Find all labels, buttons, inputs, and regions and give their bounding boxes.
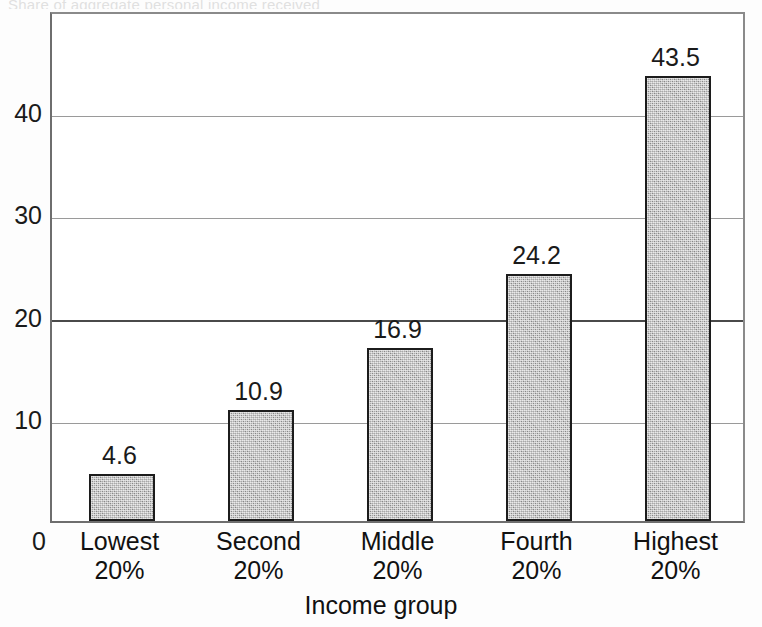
x-axis-title: Income group xyxy=(0,591,762,620)
bar-value-label: 10.9 xyxy=(199,379,319,404)
x-axis-tick-label-line1: Middle xyxy=(361,527,435,555)
x-axis-tick-label: Second20% xyxy=(179,527,339,585)
y-axis-tick-label-30: 30 xyxy=(0,203,42,228)
bar-chart-figure: Share of aggregate personal income recei… xyxy=(0,0,762,627)
bar xyxy=(228,410,294,521)
x-axis-tick-label-line1: Highest xyxy=(633,527,718,555)
x-axis-tick-label-line2: 20% xyxy=(40,556,200,585)
x-axis-tick-label: Middle20% xyxy=(318,527,478,585)
y-axis-tick-label-10: 10 xyxy=(0,408,42,433)
x-axis-tick-label-line1: Lowest xyxy=(80,527,159,555)
gridline-30 xyxy=(52,218,743,219)
bar-value-label: 24.2 xyxy=(477,243,597,268)
bar xyxy=(89,474,155,521)
bar xyxy=(367,348,433,521)
y-axis-tick-label-20: 20 xyxy=(0,306,42,331)
bar-value-label: 43.5 xyxy=(616,45,736,70)
x-axis-tick-label-line1: Second xyxy=(216,527,301,555)
x-axis-tick-label-line2: 20% xyxy=(179,556,339,585)
x-axis-tick-label-line2: 20% xyxy=(596,556,756,585)
bar-value-label: 16.9 xyxy=(338,317,458,342)
x-axis-tick-label: Fourth20% xyxy=(457,527,617,585)
x-axis-tick-label-line2: 20% xyxy=(318,556,478,585)
x-axis-tick-label: Highest20% xyxy=(596,527,756,585)
bar-value-label: 4.6 xyxy=(60,443,180,468)
y-axis-tick-label-40: 40 xyxy=(0,101,42,126)
bar xyxy=(645,76,711,521)
cropped-title-sliver: Share of aggregate personal income recei… xyxy=(0,0,762,9)
x-axis-tick-label-line1: Fourth xyxy=(500,527,572,555)
gridline-40 xyxy=(52,116,743,117)
bar xyxy=(506,274,572,521)
x-axis-tick-label-line2: 20% xyxy=(457,556,617,585)
x-axis-tick-label: Lowest20% xyxy=(40,527,200,585)
